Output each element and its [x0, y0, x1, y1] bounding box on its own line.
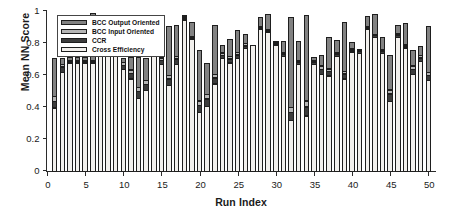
bar-segment: [136, 57, 141, 87]
legend-item[interactable]: BCC Output Oriented: [61, 18, 160, 27]
x-tick-label: 10: [119, 179, 130, 190]
bar-segment: [380, 53, 385, 171]
bar-segment: [372, 14, 377, 35]
bar-stack: [128, 55, 133, 171]
legend-label: BCC Output Oriented: [92, 19, 160, 26]
y-tick-label: 0.6: [26, 69, 39, 80]
bar-segment: [387, 101, 392, 171]
y-tick: 0.6: [43, 74, 48, 75]
bar-segment: [151, 56, 156, 171]
bar-stack: [197, 48, 202, 171]
bar-segment: [296, 41, 301, 60]
bar-stack: [258, 16, 263, 171]
bar-stack: [243, 32, 248, 171]
bar-stack: [265, 13, 270, 171]
x-tick-label: 35: [310, 179, 321, 190]
bar-stack: [159, 38, 164, 171]
bar-stack: [387, 53, 392, 171]
x-tick: 40: [352, 171, 353, 176]
bar-segment: [212, 25, 217, 75]
bar-segment: [166, 26, 171, 76]
bar-segment: [166, 85, 171, 171]
bar-segment: [204, 63, 209, 95]
x-tick-label: 25: [233, 179, 244, 190]
x-tick-label: 0: [45, 179, 50, 190]
bar-stack: [227, 37, 232, 171]
bar-stack: [342, 20, 347, 171]
bar-segment: [227, 63, 232, 172]
bar-stack: [372, 12, 377, 171]
x-tick: 0: [47, 171, 48, 176]
bar-segment: [90, 63, 95, 172]
bar-stack: [426, 24, 431, 171]
legend-item[interactable]: Cross Efficiency: [61, 45, 160, 54]
bar-stack: [281, 39, 286, 171]
bar-segment: [212, 84, 217, 172]
legend-item[interactable]: BCC Input Oriented: [61, 27, 160, 36]
bar-segment: [372, 37, 377, 171]
bar-segment: [197, 50, 202, 101]
bar-segment: [403, 48, 408, 171]
bar-stack: [250, 45, 255, 171]
bar-stack: [212, 23, 217, 171]
x-tick: 20: [200, 171, 201, 176]
x-tick-label: 20: [195, 179, 206, 190]
bar-segment: [410, 50, 415, 66]
bar-segment: [197, 112, 202, 171]
bar-stack: [121, 56, 126, 171]
legend-swatch: [61, 38, 87, 44]
legend-label: Cross Efficiency: [92, 46, 144, 53]
bar-segment: [273, 45, 278, 171]
bar-segment: [387, 55, 392, 90]
bar-segment: [365, 29, 370, 171]
bar-segment: [342, 22, 347, 72]
bar-segment: [334, 56, 339, 171]
bar-stack: [380, 35, 385, 171]
y-tick-label: 0.8: [26, 37, 39, 48]
bar-segment: [281, 41, 286, 52]
bar-segment: [121, 69, 126, 171]
x-tick-label: 15: [157, 179, 168, 190]
bar-stack: [334, 37, 339, 171]
y-tick: 0.4: [43, 106, 48, 107]
x-axis-label: Run Index: [46, 196, 436, 208]
bar-segment: [220, 58, 225, 172]
bar-stack: [189, 21, 194, 171]
bar-segment: [227, 39, 232, 57]
bar-segment: [410, 74, 415, 172]
x-tick: 25: [238, 171, 239, 176]
bar-stack: [273, 40, 278, 171]
x-tick: 35: [314, 171, 315, 176]
bar-segment: [52, 58, 57, 96]
bar-stack: [60, 56, 65, 171]
bar-segment: [265, 14, 270, 30]
bar-segment: [349, 52, 354, 172]
legend-swatch: [61, 29, 87, 35]
legend-swatch: [61, 20, 87, 26]
bar-stack: [98, 56, 103, 171]
bar-segment: [52, 108, 57, 172]
legend-item[interactable]: CCR: [61, 36, 160, 45]
bar-segment: [319, 74, 324, 172]
bar-segment: [418, 61, 423, 171]
x-tick: 30: [276, 171, 277, 176]
bar-segment: [265, 32, 270, 171]
bar-segment: [304, 116, 309, 172]
x-tick: 5: [85, 171, 86, 176]
bar-stack: [105, 56, 110, 171]
bar-stack: [349, 40, 354, 171]
bar-segment: [60, 72, 65, 171]
bar-segment: [403, 23, 408, 45]
x-tick-label: 30: [272, 179, 283, 190]
bar-segment: [426, 26, 431, 72]
bar-segment: [174, 25, 179, 57]
bar-segment: [75, 63, 80, 172]
bar-stack: [357, 47, 362, 171]
y-tick: 0.2: [43, 138, 48, 139]
bar-stack: [403, 21, 408, 171]
bar-segment: [143, 90, 148, 172]
bar-segment: [288, 120, 293, 171]
bar-segment: [189, 22, 194, 36]
y-tick: 1: [43, 10, 48, 11]
bar-segment: [243, 48, 248, 171]
